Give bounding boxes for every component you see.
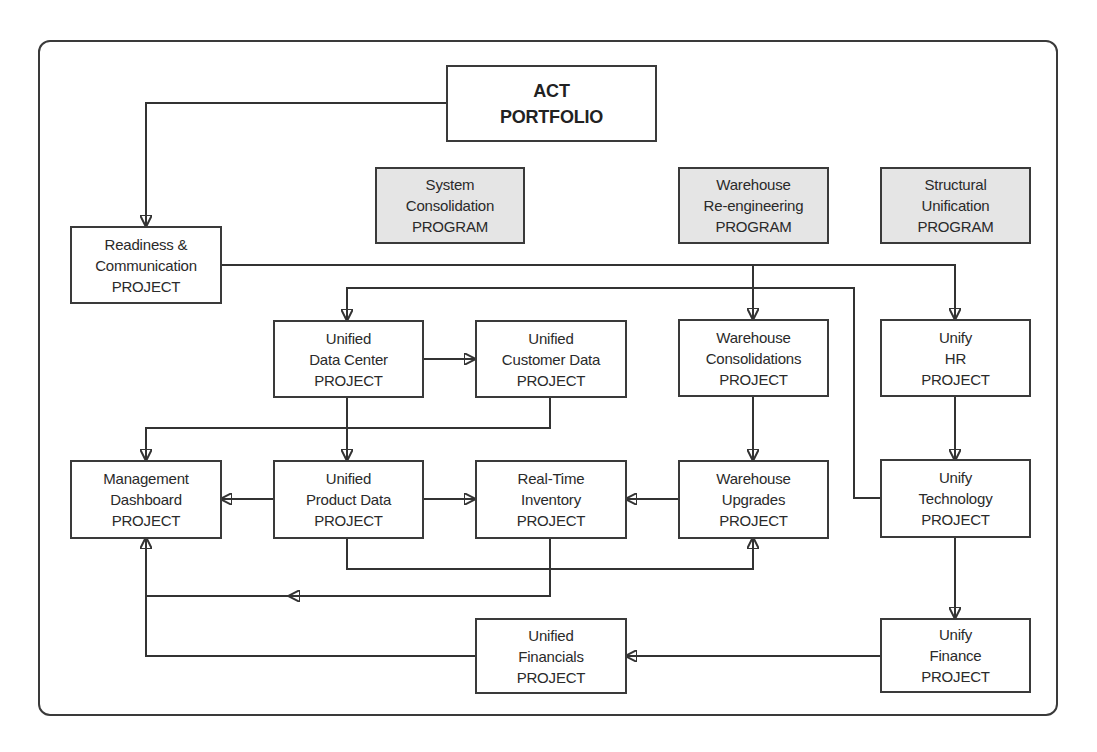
- node-label: System: [426, 174, 475, 195]
- node-label: Finance: [930, 645, 982, 666]
- node-label: Dashboard: [110, 489, 182, 510]
- node-label: Warehouse: [716, 327, 790, 348]
- node-label: PROJECT: [314, 370, 383, 391]
- node-label: Customer Data: [502, 349, 600, 370]
- node-label: HR: [945, 348, 966, 369]
- node-label: PROGRAM: [412, 216, 488, 237]
- node-label: Unify: [939, 327, 972, 348]
- node-label: PROJECT: [719, 369, 788, 390]
- node-label: Unified: [326, 468, 371, 489]
- node-label: PROJECT: [112, 510, 181, 531]
- node-label: Upgrades: [722, 489, 785, 510]
- node-label: Communication: [95, 255, 197, 276]
- system-consolidation-program-node[interactable]: System Consolidation PROGRAM: [375, 167, 525, 244]
- node-label: PORTFOLIO: [500, 104, 603, 130]
- node-label: PROGRAM: [917, 216, 993, 237]
- node-label: PROJECT: [517, 370, 586, 391]
- node-label: Unified: [528, 625, 573, 646]
- node-label: PROJECT: [921, 666, 990, 687]
- management-dashboard-project-node[interactable]: Management Dashboard PROJECT: [70, 460, 222, 539]
- node-label: ACT: [533, 78, 569, 104]
- unified-data-center-project-node[interactable]: Unified Data Center PROJECT: [273, 320, 424, 398]
- node-label: Product Data: [306, 489, 391, 510]
- node-label: Data Center: [309, 349, 388, 370]
- node-label: Consolidations: [706, 348, 802, 369]
- node-label: Re-engineering: [704, 195, 804, 216]
- node-label: PROJECT: [314, 510, 383, 531]
- structural-unification-program-node[interactable]: Structural Unification PROGRAM: [880, 167, 1031, 244]
- node-label: Warehouse: [716, 174, 790, 195]
- unify-technology-project-node[interactable]: Unify Technology PROJECT: [880, 459, 1031, 538]
- node-label: PROGRAM: [715, 216, 791, 237]
- unified-product-data-project-node[interactable]: Unified Product Data PROJECT: [273, 460, 424, 539]
- act-portfolio-node[interactable]: ACT PORTFOLIO: [446, 65, 657, 142]
- realtime-inventory-project-node[interactable]: Real-Time Inventory PROJECT: [475, 460, 627, 539]
- node-label: Warehouse: [716, 468, 790, 489]
- node-label: Financials: [518, 646, 584, 667]
- node-label: Readiness &: [105, 234, 188, 255]
- node-label: PROJECT: [112, 276, 181, 297]
- node-label: PROJECT: [921, 369, 990, 390]
- node-label: Unify: [939, 624, 972, 645]
- node-label: PROJECT: [719, 510, 788, 531]
- node-label: PROJECT: [517, 667, 586, 688]
- unified-customer-data-project-node[interactable]: Unified Customer Data PROJECT: [475, 320, 627, 398]
- node-label: Real-Time: [518, 468, 585, 489]
- node-label: PROJECT: [517, 510, 586, 531]
- node-label: Technology: [919, 488, 993, 509]
- warehouse-reengineering-program-node[interactable]: Warehouse Re-engineering PROGRAM: [678, 167, 829, 244]
- node-label: Unified: [326, 328, 371, 349]
- readiness-communication-project-node[interactable]: Readiness & Communication PROJECT: [70, 226, 222, 304]
- warehouse-consolidations-project-node[interactable]: Warehouse Consolidations PROJECT: [678, 319, 829, 397]
- unified-financials-project-node[interactable]: Unified Financials PROJECT: [475, 618, 627, 694]
- node-label: Management: [103, 468, 189, 489]
- node-label: Unification: [922, 195, 990, 216]
- unify-finance-project-node[interactable]: Unify Finance PROJECT: [880, 618, 1031, 693]
- node-label: Inventory: [521, 489, 581, 510]
- node-label: PROJECT: [921, 509, 990, 530]
- unify-hr-project-node[interactable]: Unify HR PROJECT: [880, 319, 1031, 397]
- node-label: Unify: [939, 467, 972, 488]
- node-label: Unified: [528, 328, 573, 349]
- warehouse-upgrades-project-node[interactable]: Warehouse Upgrades PROJECT: [678, 460, 829, 539]
- node-label: Consolidation: [406, 195, 494, 216]
- node-label: Structural: [924, 174, 986, 195]
